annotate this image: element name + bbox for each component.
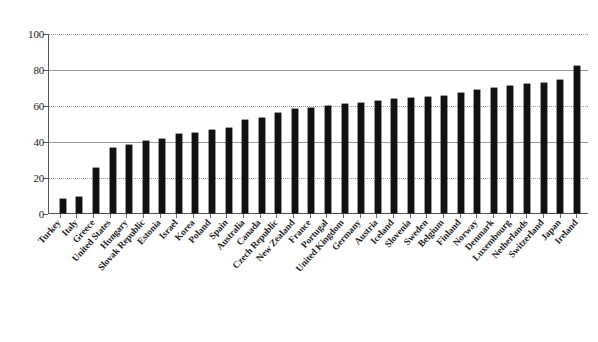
bar	[391, 99, 397, 213]
bar-slot	[121, 34, 138, 213]
bar	[507, 86, 513, 213]
bar-slot	[88, 34, 105, 213]
bar-slot	[336, 34, 353, 213]
bar-slot	[270, 34, 287, 213]
y-tick-label-0: 0	[18, 209, 44, 220]
bar-slot	[568, 34, 585, 213]
x-axis-labels: TurkeyItalyGreeceUnited StatesHungarySlo…	[48, 219, 588, 339]
bar-slot	[154, 34, 171, 213]
x-label-slot: Ireland	[568, 219, 585, 339]
bar	[491, 88, 497, 213]
bar	[60, 199, 66, 213]
bar-slot	[519, 34, 536, 213]
bar	[425, 97, 431, 213]
y-tick-label-40: 40	[18, 137, 44, 148]
bar-slot	[452, 34, 469, 213]
bar-slot	[436, 34, 453, 213]
bar	[408, 98, 414, 213]
bar-slot	[486, 34, 503, 213]
bar	[441, 96, 447, 213]
bar-slot	[403, 34, 420, 213]
bar-chart: 100 80 60 40 20 0 TurkeyItalyGreeceUnite…	[0, 0, 598, 342]
bar	[192, 133, 198, 213]
bar-slot	[419, 34, 436, 213]
bar-slot	[204, 34, 221, 213]
x-axis-label-text: Turkey	[36, 218, 63, 246]
bar-slot	[386, 34, 403, 213]
bar	[93, 168, 99, 213]
y-tick-label-60: 60	[18, 101, 44, 112]
bar-slot	[104, 34, 121, 213]
bar-slot	[187, 34, 204, 213]
bar	[209, 130, 215, 213]
bar-slot	[502, 34, 519, 213]
bar-slot	[237, 34, 254, 213]
bar	[458, 93, 464, 213]
bar	[474, 90, 480, 214]
y-tick-label-80: 80	[18, 65, 44, 76]
bar-slot	[220, 34, 237, 213]
y-tick-label-100: 100	[18, 29, 44, 40]
bar-slot	[469, 34, 486, 213]
bar-slot	[287, 34, 304, 213]
bar	[242, 120, 248, 213]
bar-slot	[71, 34, 88, 213]
bar	[524, 84, 530, 213]
bar-slot	[55, 34, 72, 213]
y-tick-label-20: 20	[18, 173, 44, 184]
bar-slot	[253, 34, 270, 213]
bar-slot	[353, 34, 370, 213]
